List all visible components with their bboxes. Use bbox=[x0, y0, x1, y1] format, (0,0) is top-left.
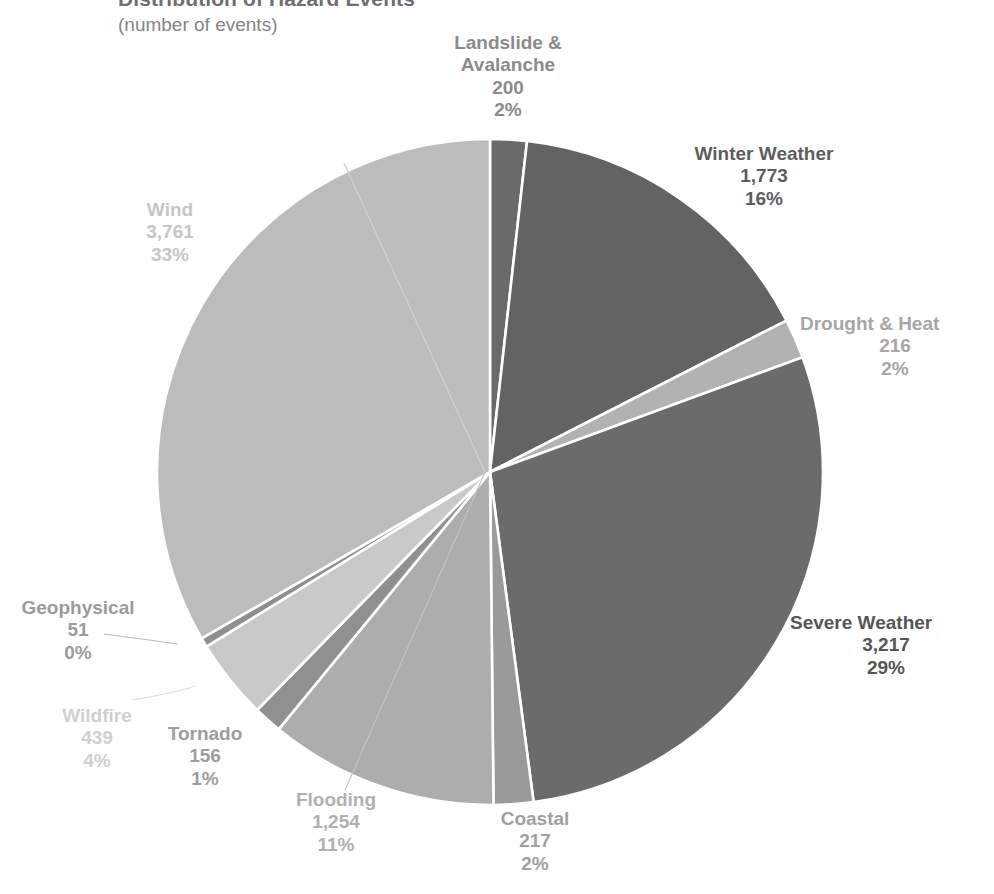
slice-label-landslide-avalanche-name-line1: Landslide & bbox=[418, 32, 598, 54]
pie-chart-figure: Distribution of Hazard Events (number of… bbox=[0, 0, 994, 894]
slice-label-severe-weather-percent: 29% bbox=[790, 657, 982, 679]
slice-label-geophysical-value: 51 bbox=[2, 619, 154, 641]
slice-label-wildfire-percent: 4% bbox=[36, 750, 158, 772]
slice-label-drought-heat-name: Drought & Heat bbox=[800, 313, 994, 335]
slice-label-geophysical-percent: 0% bbox=[2, 642, 154, 664]
slice-label-severe-weather-value: 3,217 bbox=[790, 634, 982, 656]
slice-label-tornado-name: Tornado bbox=[140, 723, 270, 745]
slice-label-flooding: Flooding 1,254 11% bbox=[262, 789, 410, 856]
slice-label-tornado: Tornado 156 1% bbox=[140, 723, 270, 790]
slice-label-wind-name: Wind bbox=[110, 199, 230, 221]
slice-label-drought-heat-value: 216 bbox=[800, 335, 990, 357]
slice-label-wind-percent: 33% bbox=[110, 244, 230, 266]
slice-label-wind-value: 3,761 bbox=[110, 221, 230, 243]
slice-label-landslide-avalanche-value: 200 bbox=[418, 77, 598, 99]
slice-label-flooding-name: Flooding bbox=[262, 789, 410, 811]
slice-label-coastal-value: 217 bbox=[470, 830, 600, 852]
slice-label-wildfire: Wildfire 439 4% bbox=[36, 705, 158, 772]
slice-label-flooding-value: 1,254 bbox=[262, 811, 410, 833]
slice-label-wildfire-value: 439 bbox=[36, 727, 158, 749]
slice-label-tornado-percent: 1% bbox=[140, 768, 270, 790]
slice-label-severe-weather-name: Severe Weather bbox=[790, 612, 994, 634]
slice-label-wind: Wind 3,761 33% bbox=[110, 199, 230, 266]
slice-label-coastal: Coastal 217 2% bbox=[470, 808, 600, 875]
slice-label-landslide-avalanche: Landslide & Avalanche 200 2% bbox=[418, 32, 598, 122]
wildfire-leader-line bbox=[132, 686, 196, 700]
slice-label-winter-weather: Winter Weather 1,773 16% bbox=[648, 143, 880, 210]
slice-label-drought-heat: Drought & Heat 216 2% bbox=[800, 313, 994, 380]
slice-label-winter-weather-name: Winter Weather bbox=[648, 143, 880, 165]
slice-label-winter-weather-percent: 16% bbox=[648, 188, 880, 210]
slice-label-drought-heat-percent: 2% bbox=[800, 358, 990, 380]
slice-label-wildfire-name: Wildfire bbox=[36, 705, 158, 727]
slice-label-geophysical: Geophysical 51 0% bbox=[2, 597, 154, 664]
slice-label-tornado-value: 156 bbox=[140, 745, 270, 767]
slice-label-geophysical-name: Geophysical bbox=[2, 597, 154, 619]
slice-label-winter-weather-value: 1,773 bbox=[648, 165, 880, 187]
slice-label-coastal-percent: 2% bbox=[470, 853, 600, 875]
slice-label-landslide-avalanche-percent: 2% bbox=[418, 99, 598, 121]
slice-label-flooding-percent: 11% bbox=[262, 834, 410, 856]
slice-label-coastal-name: Coastal bbox=[470, 808, 600, 830]
slice-label-severe-weather: Severe Weather 3,217 29% bbox=[790, 612, 994, 679]
slice-label-landslide-avalanche-name-line2: Avalanche bbox=[418, 54, 598, 76]
